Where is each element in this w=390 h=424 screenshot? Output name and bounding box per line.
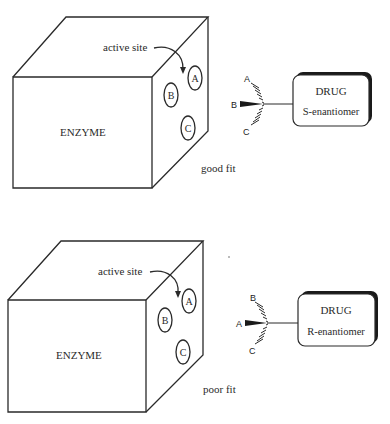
wedge-bond-icon	[240, 101, 263, 107]
active-site-label: active site	[103, 41, 147, 53]
binding-site-a: A	[182, 289, 196, 313]
arrow-head-icon	[175, 291, 181, 298]
binding-site-b: B	[164, 83, 178, 107]
binding-site-c: C	[181, 116, 195, 140]
drug-title: DRUG	[315, 85, 346, 97]
svg-text:C: C	[185, 123, 192, 134]
panel-s-enantiomer: ENZYME active site A B C	[13, 17, 372, 188]
substituent-down-label: C	[243, 127, 250, 137]
drug-title: DRUG	[320, 304, 351, 316]
substituent-up-label: B	[250, 293, 256, 303]
substituent-up-label: A	[244, 74, 250, 84]
drug-subtitle: S-enantiomer	[303, 106, 360, 117]
svg-text:A: A	[191, 73, 199, 84]
svg-text:B: B	[162, 315, 169, 326]
drug-subtitle: R-enantiomer	[307, 326, 365, 337]
arrow-head-icon	[180, 67, 186, 74]
binding-site-b: B	[158, 308, 172, 332]
drug-box-s: DRUG S-enantiomer	[293, 72, 372, 126]
cube-side-face	[152, 17, 208, 188]
enzyme-label: ENZYME	[56, 349, 102, 361]
svg-text:A: A	[185, 296, 193, 307]
substituent-wedge-label: A	[236, 319, 242, 329]
active-site-label: active site	[98, 265, 142, 277]
substituent-down-label: C	[249, 346, 256, 356]
wedge-bond-icon	[245, 320, 267, 326]
hashed-bond-down-icon	[251, 105, 264, 125]
binding-site-a: A	[188, 66, 202, 90]
hashed-bond-up-icon	[251, 83, 264, 103]
binding-site-c: C	[176, 340, 190, 364]
panel-r-enantiomer: ENZYME active site A B C B	[8, 241, 378, 412]
svg-text:B: B	[168, 90, 175, 101]
svg-text:C: C	[180, 347, 187, 358]
hashed-bond-down-icon	[255, 324, 268, 344]
cube-side-face	[146, 241, 203, 412]
fit-label: good fit	[201, 162, 236, 174]
enantiomer-diagram: ENZYME active site A B C	[0, 0, 390, 424]
fit-label: poor fit	[203, 383, 236, 395]
stereocenter-r: B A C	[236, 293, 298, 356]
drug-box-r: DRUG R-enantiomer	[298, 291, 378, 346]
substituent-wedge-label: B	[231, 100, 237, 110]
enzyme-label: ENZYME	[60, 126, 106, 138]
hashed-bond-up-icon	[255, 302, 268, 322]
speck	[228, 256, 229, 257]
stereocenter-s: A B C	[231, 74, 293, 137]
